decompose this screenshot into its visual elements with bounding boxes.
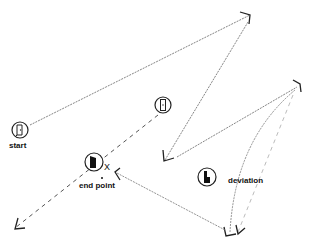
- deviation-label: deviation: [228, 176, 263, 185]
- path-segment-middle-to-right: [177, 80, 301, 157]
- path-segment-right-to-bottom: [224, 90, 295, 236]
- path-segment-start-to-top: [30, 12, 250, 125]
- door-open-icon: [84, 152, 104, 172]
- start-label: start: [9, 141, 26, 150]
- end-marker: X: [104, 162, 110, 172]
- door-closed-icon: [11, 121, 29, 139]
- path-segment-deviation: [236, 95, 293, 234]
- end-point-label: end point: [79, 181, 115, 190]
- door-closed-icon: [154, 96, 172, 114]
- door-deviation-icon: [197, 167, 217, 187]
- end-dot: [101, 177, 103, 179]
- path-diagram: [0, 0, 310, 248]
